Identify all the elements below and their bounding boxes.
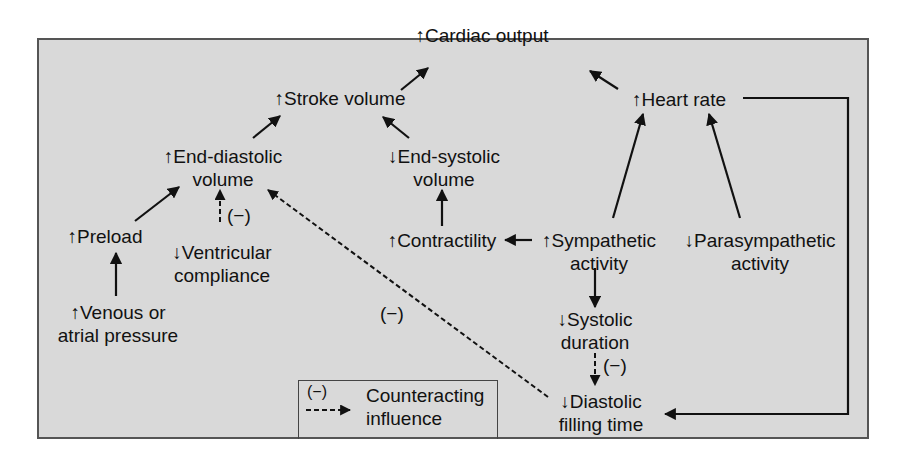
node-sympathetic-activity: ↑Sympathetic activity: [542, 229, 656, 275]
node-label-line1: ↑Sympathetic: [542, 229, 656, 252]
node-label-line2: volume: [164, 168, 282, 191]
negative-label-systolic: (−): [603, 355, 627, 377]
node-label-line1: ↑End-diastolic: [164, 145, 282, 168]
node-label-line2: activity: [542, 252, 656, 275]
legend-line1: Counteracting: [366, 384, 484, 407]
legend-symbol: (−): [307, 383, 327, 401]
node-label-line2: filling time: [559, 413, 643, 436]
node-venous-atrial-pressure: ↑Venous or atrial pressure: [58, 301, 178, 347]
node-ventricular-compliance: ↓Ventricular compliance: [172, 241, 271, 287]
node-end-systolic-volume: ↓End-systolic volume: [388, 145, 500, 191]
node-label: ↑Cardiac output: [415, 25, 548, 46]
arrow-edv-to-sv: [253, 116, 280, 138]
node-label-line2: volume: [388, 168, 500, 191]
node-heart-rate: ↑Heart rate: [632, 88, 726, 111]
legend-line2: influence: [366, 407, 484, 430]
node-label: ↑Contractility: [388, 230, 497, 251]
node-label: ↑Heart rate: [632, 89, 726, 110]
node-label-line2: duration: [558, 331, 633, 354]
node-diastolic-filling-time: ↓Diastolic filling time: [559, 390, 643, 436]
node-label-line1: ↓Systolic: [558, 308, 633, 331]
node-label-line2: activity: [684, 252, 835, 275]
arrow-hr-to-co: [590, 71, 618, 89]
arrow-parasympathetic-to-hr: [709, 114, 740, 218]
legend: (−) Counteracting influence: [298, 380, 498, 439]
arrow-esv-to-sv: [383, 117, 409, 138]
legend-text: Counteracting influence: [366, 384, 484, 430]
node-contractility: ↑Contractility: [388, 229, 497, 252]
node-cardiac-output: ↑Cardiac output: [415, 24, 548, 47]
node-preload: ↑Preload: [68, 225, 143, 248]
arrow-diastolic-to-edv: [268, 190, 548, 397]
negative-label-compliance: (−): [227, 205, 251, 227]
node-end-diastolic-volume: ↑End-diastolic volume: [164, 145, 282, 191]
node-systolic-duration: ↓Systolic duration: [558, 308, 633, 354]
node-label-line2: compliance: [172, 264, 271, 287]
node-parasympathetic-activity: ↓Parasympathetic activity: [684, 229, 835, 275]
negative-label-diagonal: (−): [380, 303, 404, 325]
node-label-line1: ↓Diastolic: [559, 390, 643, 413]
node-stroke-volume: ↑Stroke volume: [275, 87, 406, 110]
arrow-preload-to-edv: [135, 187, 179, 221]
node-label: ↑Preload: [68, 226, 143, 247]
node-label-line1: ↑Venous or: [58, 301, 178, 324]
node-label-line1: ↓Ventricular: [172, 241, 271, 264]
node-label-line2: atrial pressure: [58, 324, 178, 347]
node-label-line1: ↓Parasympathetic: [684, 229, 835, 252]
node-label-line1: ↓End-systolic: [388, 145, 500, 168]
node-label: ↑Stroke volume: [275, 88, 406, 109]
arrow-sympathetic-to-hr: [613, 114, 643, 218]
